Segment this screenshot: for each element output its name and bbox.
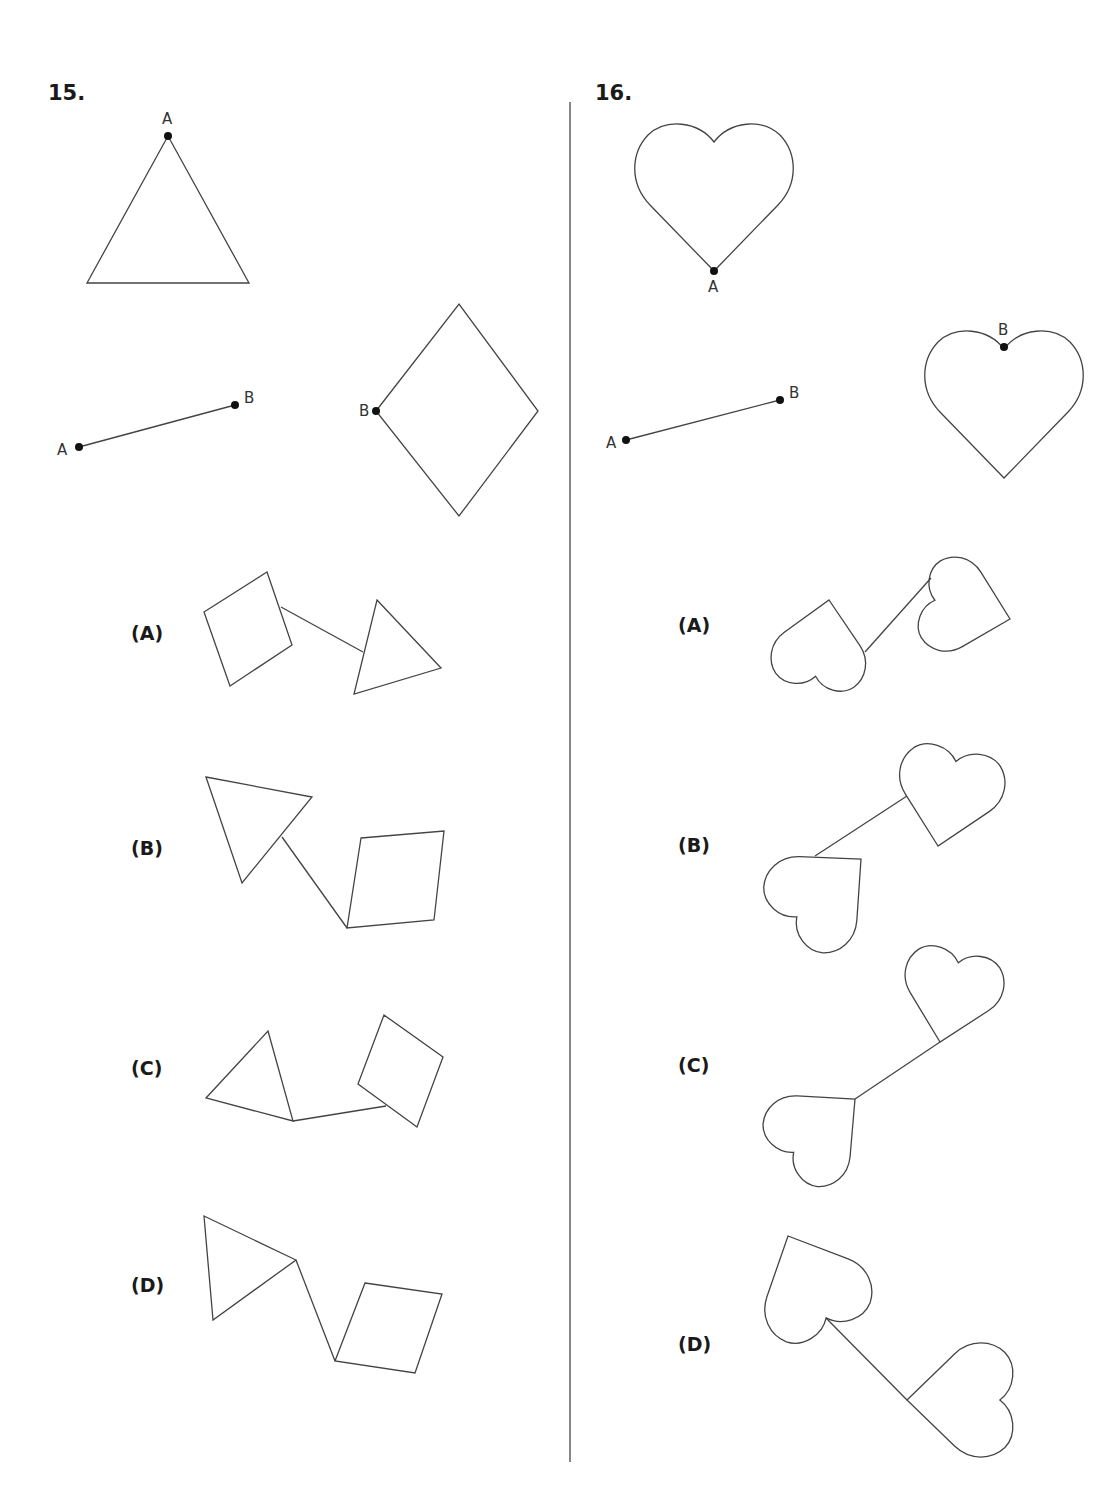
connecting-segment (281, 607, 363, 652)
answer-options: (A)(B)(C)(D) (678, 552, 1022, 1458)
answer-option-a[interactable]: (A) (131, 572, 441, 694)
triangle-image (206, 1031, 293, 1121)
answer-option-b[interactable]: (B) (131, 777, 444, 928)
point-a-dot (164, 132, 172, 140)
segment-point-a-dot (622, 436, 630, 444)
heart-image (738, 1213, 882, 1353)
point-b-label: B (998, 321, 1008, 339)
connecting-segment (826, 1318, 907, 1400)
answer-option-d[interactable]: (D) (678, 1213, 1013, 1458)
question-number: 15. (48, 81, 85, 105)
heart-image (752, 820, 896, 965)
option-label: (A) (131, 622, 163, 644)
answer-option-b[interactable]: (B) (678, 739, 1010, 965)
given-figures: A A B B (57, 110, 538, 516)
option-label: (B) (678, 834, 710, 856)
rhombus-image (335, 1283, 442, 1373)
segment-ab (79, 405, 235, 447)
heart-image (907, 1343, 1013, 1457)
triangle-figure (87, 136, 249, 283)
answer-option-a[interactable]: (A) (678, 552, 1022, 696)
option-label: (C) (678, 1054, 709, 1076)
segment-label-b: B (789, 384, 799, 402)
triangle-image (204, 1216, 296, 1320)
heart-image (913, 552, 1022, 666)
question-15: 15. A A B B (A)(B)(C)(D) (48, 81, 538, 1373)
heart-image (767, 592, 876, 695)
triangle-image (354, 600, 441, 694)
triangle-image (206, 777, 312, 883)
heart-figure-b (925, 331, 1084, 478)
connecting-segment (282, 837, 347, 928)
answer-option-d[interactable]: (D) (131, 1216, 442, 1373)
point-b-label: B (359, 402, 369, 420)
connecting-segment (296, 1260, 335, 1361)
answer-option-c[interactable]: (C) (131, 1015, 443, 1127)
segment-point-a-dot (75, 443, 83, 451)
segment-label-a: A (606, 434, 617, 452)
heart-figure-a (635, 124, 794, 271)
segment-ab (626, 400, 780, 440)
segment-label-b: B (244, 389, 254, 407)
worksheet-canvas: 15. A A B B (A)(B)(C)(D) 16. A A B (0, 0, 1120, 1505)
connecting-segment (855, 1042, 940, 1099)
option-label: (D) (131, 1274, 164, 1296)
answer-options: (A)(B)(C)(D) (131, 572, 444, 1373)
point-b-dot (372, 407, 380, 415)
option-label: (C) (131, 1057, 162, 1079)
segment-label-a: A (57, 441, 68, 459)
given-figures: A A B B (606, 124, 1083, 478)
point-a-label: A (162, 110, 173, 128)
connecting-segment (293, 1106, 386, 1121)
rhombus-image (358, 1015, 443, 1127)
option-label: (B) (131, 837, 163, 859)
heart-image (891, 941, 1009, 1054)
point-b-dot (1000, 343, 1008, 351)
rhombus-image (347, 831, 444, 928)
question-16: 16. A A B B (A)(B)(C)(D) (595, 81, 1083, 1457)
option-label: (D) (678, 1333, 711, 1355)
question-number: 16. (595, 81, 632, 105)
rhombus-image (204, 572, 292, 686)
segment-point-b-dot (231, 401, 239, 409)
point-a-label: A (708, 278, 719, 296)
segment-point-b-dot (776, 396, 784, 404)
option-label: (A) (678, 614, 710, 636)
point-a-dot (710, 267, 718, 275)
rhombus-figure (376, 304, 538, 516)
heart-image (752, 1061, 887, 1197)
connecting-segment (815, 796, 907, 856)
answer-option-c[interactable]: (C) (678, 941, 1009, 1198)
